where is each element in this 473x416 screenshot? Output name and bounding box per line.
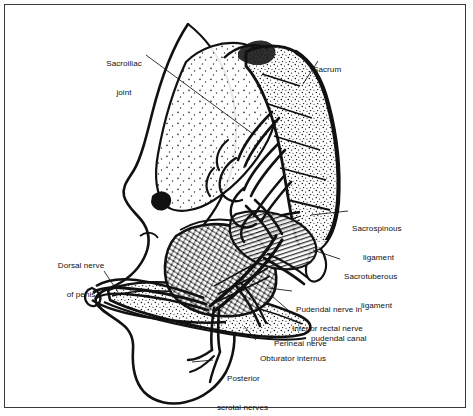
pelvis-illustration bbox=[0, 0, 473, 416]
label-obturator-internus-line1: Obturator internus bbox=[260, 354, 326, 364]
label-posterior-scrotal-nerves: Posterior scrotal nerves bbox=[217, 355, 268, 416]
label-dorsal-nerve-of-penis: Dorsal nerve of penis bbox=[47, 242, 115, 319]
label-sacroiliac-joint-line2: joint bbox=[90, 88, 158, 98]
label-sacrospinous-ligament-line1: Sacrospinous bbox=[352, 224, 402, 234]
label-posterior-scrotal-nerves-line1: Posterior bbox=[217, 374, 268, 384]
label-dorsal-nerve-of-penis-line1: Dorsal nerve bbox=[47, 261, 115, 271]
label-sacrum-line1: Sacrum bbox=[313, 65, 341, 75]
label-dorsal-nerve-of-penis-line2: of penis bbox=[47, 290, 115, 300]
label-sacroiliac-joint: Sacroiliac joint bbox=[90, 40, 158, 117]
label-sacrum: Sacrum bbox=[313, 46, 341, 94]
label-sacroiliac-joint-line1: Sacroiliac bbox=[90, 59, 158, 69]
figure-page: Sacroiliac joint Sacrum Sacrospinous lig… bbox=[0, 0, 473, 416]
label-posterior-scrotal-nerves-line2: scrotal nerves bbox=[217, 403, 268, 413]
label-obturator-internus: Obturator internus bbox=[260, 335, 326, 383]
label-sacrotuberous-ligament-line1: Sacrotuberous bbox=[344, 272, 397, 282]
leader-sacrotuberous-ligament bbox=[313, 250, 340, 259]
